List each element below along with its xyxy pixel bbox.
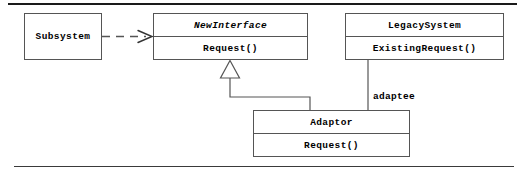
- class-box-adaptor[interactable]: Adaptor Request(): [253, 110, 410, 157]
- class-name-adaptor: Adaptor: [254, 111, 409, 133]
- class-box-legacysystem[interactable]: LegacySystem ExistingRequest(): [345, 13, 504, 60]
- dependency-open-arrowhead: [138, 31, 152, 43]
- class-name-legacysystem: LegacySystem: [346, 14, 503, 36]
- dependency-arrow-subsystem-to-newinterface: [102, 31, 152, 43]
- class-operation-newinterface-request: Request(): [154, 36, 307, 59]
- generalization-hollow-triangle: [221, 61, 240, 79]
- class-name-subsystem: Subsystem: [25, 14, 101, 59]
- association-role-label-adaptee: adaptee: [373, 91, 415, 102]
- class-box-newinterface[interactable]: NewInterface Request(): [153, 13, 308, 60]
- top-divider-rule: [8, 3, 517, 5]
- generalization-arrow-adaptor-to-newinterface: [221, 61, 311, 111]
- generalization-elbow-line: [230, 78, 310, 110]
- class-operation-legacysystem-existingrequest: ExistingRequest(): [346, 36, 503, 59]
- uml-class-diagram: Subsystem NewInterface Request() LegacyS…: [0, 0, 525, 175]
- bottom-divider-rule: [14, 166, 514, 167]
- class-box-subsystem[interactable]: Subsystem: [24, 13, 102, 60]
- class-operation-adaptor-request: Request(): [254, 133, 409, 156]
- class-name-newinterface: NewInterface: [154, 14, 307, 36]
